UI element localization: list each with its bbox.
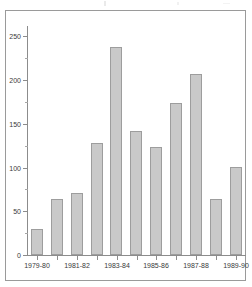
y-axis-minor-tick: [25, 58, 28, 59]
chart-figure: 050100150200250 1979-801981-821983-84198…: [0, 0, 252, 287]
y-axis-minor-tick: [25, 233, 28, 234]
bar: [230, 167, 242, 255]
bar: [210, 199, 222, 255]
x-axis-tick: [37, 256, 38, 260]
x-axis-tick-label: 1987-88: [183, 262, 209, 270]
x-axis-tick: [216, 256, 217, 260]
x-axis-tick: [156, 256, 157, 260]
y-axis-major-tick: [23, 168, 28, 169]
x-axis-tick: [176, 256, 177, 260]
x-axis-tick: [236, 256, 237, 260]
y-axis-major-tick: [23, 124, 28, 125]
bar: [71, 193, 83, 255]
y-axis-tick-label: 150: [0, 121, 21, 128]
y-axis-major-tick: [23, 80, 28, 81]
x-axis-tick-label: 1989-90: [223, 262, 249, 270]
bar: [51, 199, 63, 255]
x-axis-tick: [137, 256, 138, 260]
y-axis-minor-tick: [25, 146, 28, 147]
x-axis-tick-label: 1979-80: [24, 262, 50, 270]
y-axis-minor-tick: [25, 189, 28, 190]
y-axis-tick-label: 200: [0, 77, 21, 84]
y-axis-major-tick: [23, 36, 28, 37]
bar: [130, 131, 142, 255]
y-axis-tick-label: 0: [0, 252, 21, 259]
x-axis-tick: [77, 256, 78, 260]
x-axis-tick-label: 1981-82: [64, 262, 90, 270]
y-axis-major-tick: [23, 211, 28, 212]
y-axis-line: [27, 26, 28, 256]
bar: [190, 74, 202, 255]
bar: [150, 147, 162, 255]
chart-plot-area: 050100150200250 1979-801981-821983-84198…: [0, 0, 252, 287]
x-axis-tick-label: 1985-86: [143, 262, 169, 270]
x-axis-tick: [196, 256, 197, 260]
y-axis-tick-label: 250: [0, 33, 21, 40]
bar: [110, 47, 122, 255]
bar: [170, 103, 182, 255]
x-axis-tick: [57, 256, 58, 260]
bar: [91, 143, 103, 255]
y-axis-tick-label: 50: [0, 208, 21, 215]
x-axis-tick: [117, 256, 118, 260]
y-axis-tick-label: 100: [0, 165, 21, 172]
bar: [31, 229, 43, 255]
x-axis-tick: [97, 256, 98, 260]
x-axis-tick-label: 1983-84: [104, 262, 130, 270]
y-axis-major-tick: [23, 255, 28, 256]
y-axis-minor-tick: [25, 102, 28, 103]
